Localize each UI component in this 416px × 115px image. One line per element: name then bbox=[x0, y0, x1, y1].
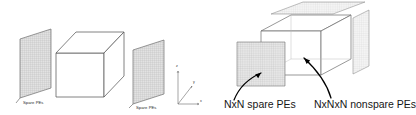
right-diagram: NxN spare PEs NxNxN nonspare PEs bbox=[205, 0, 410, 115]
spare-pes-label-right: Spare PEs bbox=[136, 106, 156, 110]
axis-label-x: x bbox=[200, 100, 202, 104]
right-spare-pe-plane bbox=[133, 40, 164, 104]
right-spare-pes-leader-line bbox=[129, 104, 133, 108]
left-diagram-canvas bbox=[0, 0, 205, 115]
left-spare-pe-plane bbox=[20, 29, 51, 98]
nxn-spare-pes-label: NxN spare PEs bbox=[224, 99, 296, 110]
left-spare-pes-leader-line bbox=[16, 98, 20, 103]
left-diagram: Spare PEs Spare PEs z y x bbox=[0, 0, 205, 115]
nxnxn-nonspare-pes-label: NxNxN nonspare PEs bbox=[314, 99, 416, 110]
axis-label-y: y bbox=[193, 81, 195, 85]
center-cuboid bbox=[56, 32, 124, 97]
top-spare-plane bbox=[271, 2, 365, 14]
spare-pe-plane-front bbox=[237, 42, 285, 86]
spare-pes-label-left: Spare PEs bbox=[23, 101, 43, 105]
axis-label-z: z bbox=[176, 65, 178, 69]
side-spare-plane bbox=[353, 10, 369, 74]
axis-triad bbox=[177, 71, 199, 105]
